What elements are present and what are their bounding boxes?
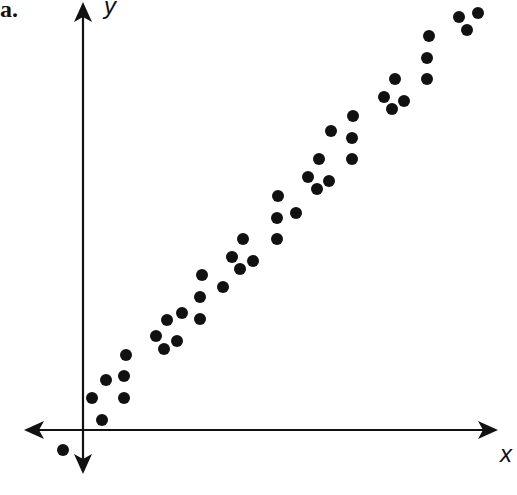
data-point: [346, 153, 358, 165]
data-point: [389, 73, 401, 85]
data-point: [96, 414, 108, 426]
data-point: [150, 330, 162, 342]
data-point: [234, 263, 246, 275]
data-point: [325, 125, 337, 137]
data-point: [237, 233, 249, 245]
data-point: [398, 95, 410, 107]
data-point: [378, 91, 390, 103]
data-point: [453, 11, 465, 23]
data-point: [176, 307, 188, 319]
data-point: [158, 343, 170, 355]
data-point: [311, 183, 323, 195]
data-point: [347, 110, 359, 122]
data-point: [302, 171, 314, 183]
data-point: [461, 24, 473, 36]
data-point: [323, 175, 335, 187]
data-point: [100, 374, 112, 386]
data-point: [271, 233, 283, 245]
data-point: [194, 291, 206, 303]
data-points: [57, 7, 484, 456]
data-point: [313, 153, 325, 165]
data-point: [423, 30, 435, 42]
data-point: [272, 190, 284, 202]
data-point: [196, 269, 208, 281]
data-point: [247, 255, 259, 267]
data-point: [217, 281, 229, 293]
data-point: [346, 132, 358, 144]
data-point: [171, 335, 183, 347]
data-point: [421, 73, 433, 85]
data-point: [472, 7, 484, 19]
data-point: [290, 207, 302, 219]
data-point: [57, 444, 69, 456]
data-point: [194, 313, 206, 325]
data-point: [161, 314, 173, 326]
data-point: [120, 349, 132, 361]
scatter-plot: [0, 0, 517, 495]
data-point: [118, 370, 130, 382]
data-point: [386, 103, 398, 115]
data-point: [226, 251, 238, 263]
data-point: [421, 52, 433, 64]
data-point: [86, 392, 98, 404]
data-point: [271, 212, 283, 224]
data-point: [118, 392, 130, 404]
